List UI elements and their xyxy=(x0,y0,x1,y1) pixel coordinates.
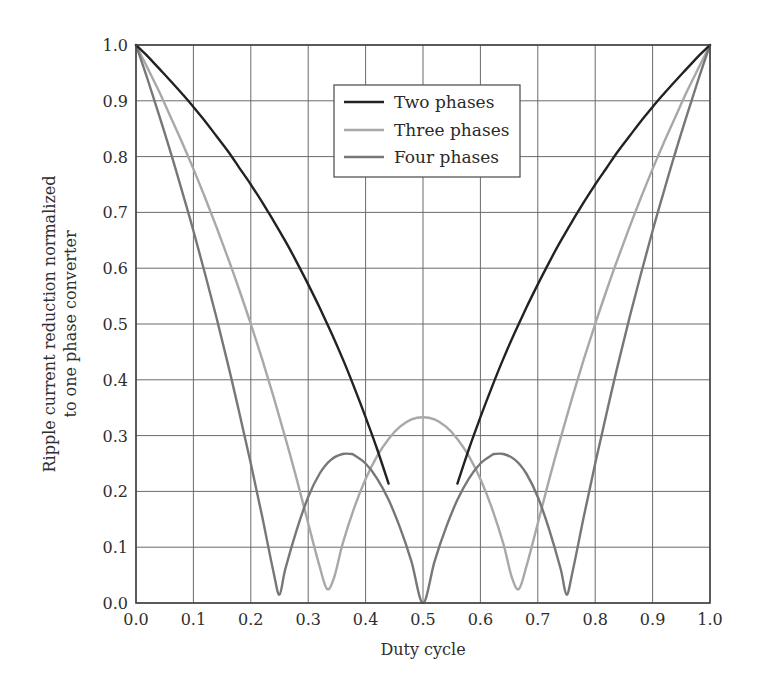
x-tick-label: 1.0 xyxy=(697,610,722,629)
x-tick-label: 0.9 xyxy=(640,610,665,629)
y-tick-label: 0.7 xyxy=(103,203,128,222)
x-tick-label: 0.3 xyxy=(295,610,320,629)
y-tick-label: 0.0 xyxy=(103,594,128,613)
y-tick-label: 0.6 xyxy=(103,259,128,278)
ripple-current-chart: 0.00.10.20.30.40.50.60.70.80.91.0 0.00.1… xyxy=(0,0,757,699)
x-axis-title: Duty cycle xyxy=(380,640,465,659)
x-tick-label: 0.6 xyxy=(468,610,493,629)
y-tick-label: 1.0 xyxy=(103,36,128,55)
y-tick-label: 0.1 xyxy=(103,538,128,557)
y-tick-label: 0.9 xyxy=(103,92,128,111)
y-tick-label: 0.3 xyxy=(103,427,128,446)
legend: Two phases Three phases Four phases xyxy=(334,85,520,177)
x-tick-label: 0.4 xyxy=(353,610,378,629)
x-tick-label: 0.1 xyxy=(181,610,206,629)
y-axis-title: Ripple current reduction normalized to o… xyxy=(40,175,80,472)
x-axis-ticks: 0.00.10.20.30.40.50.60.70.80.91.0 xyxy=(123,610,722,629)
legend-label-three-phases: Three phases xyxy=(394,120,509,140)
x-tick-label: 0.2 xyxy=(238,610,263,629)
y-axis-title-line-2: to one phase converter xyxy=(61,230,80,417)
legend-label-two-phases: Two phases xyxy=(394,92,494,112)
y-tick-label: 0.8 xyxy=(103,148,128,167)
y-tick-label: 0.2 xyxy=(103,482,128,501)
y-axis-title-line-1: Ripple current reduction normalized xyxy=(40,175,59,472)
x-tick-label: 0.5 xyxy=(410,610,435,629)
legend-label-four-phases: Four phases xyxy=(394,147,499,167)
x-tick-label: 0.8 xyxy=(582,610,607,629)
x-tick-label: 0.7 xyxy=(525,610,550,629)
y-tick-label: 0.4 xyxy=(103,371,128,390)
y-tick-label: 0.5 xyxy=(103,315,128,334)
y-axis-ticks: 0.00.10.20.30.40.50.60.70.80.91.0 xyxy=(103,36,128,613)
